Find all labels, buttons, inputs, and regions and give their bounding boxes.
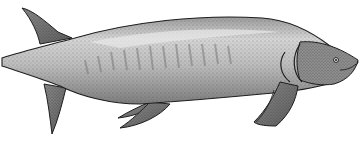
illustration-canvas (0, 0, 363, 144)
fish-illustration (0, 0, 363, 144)
